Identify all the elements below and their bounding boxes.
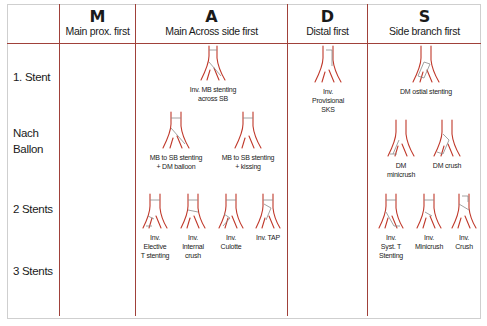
bifurcation-icon [414, 192, 444, 232]
column-letter: M [60, 8, 135, 25]
column-header-d: D Distal first [288, 8, 367, 38]
figure-caption: Inv. Crush [446, 233, 482, 251]
column-letter: A [136, 8, 287, 25]
bifurcation-icon [178, 192, 208, 232]
column-header-a: A Main Across side first [136, 8, 287, 38]
bifurcation-icon [140, 192, 170, 232]
figure-caption: DM crush [424, 161, 470, 170]
row-label-2-stents: 2 Stents [13, 201, 53, 217]
figure-mb-to-sb-dm-balloon: MB to SB stenting + DM balloon [140, 110, 212, 171]
figure-caption: MB to SB stenting + DM balloon [140, 153, 212, 171]
figure-caption: Inv. Internal crush [175, 233, 211, 260]
figure-inv-mb-stenting-across-sb: Inv. MB stenting across SB [178, 44, 248, 103]
figure-inv-crush: Inv. Crush [446, 192, 482, 251]
bifurcation-icon [410, 44, 442, 86]
bifurcation-icon [431, 118, 463, 160]
column-divider [135, 4, 136, 316]
figure-dm-crush: DM crush [424, 118, 470, 170]
column-letter: D [288, 8, 367, 25]
bifurcation-icon [312, 44, 344, 86]
figure-inv-tap: Inv. TAP [250, 192, 286, 242]
column-divider [59, 4, 60, 316]
figure-caption: Inv. Syst. T Stenting [372, 233, 410, 260]
row-label-1-stent: 1. Stent [13, 69, 50, 85]
column-subtitle: Side branch first [368, 25, 481, 38]
figure-caption: Inv. TAP [250, 233, 286, 242]
figure-caption: Inv. Culotte [213, 233, 249, 251]
figure-inv-culotte: Inv. Culotte [213, 192, 249, 251]
figure-caption: Inv. MB stenting across SB [178, 85, 248, 103]
row-label-3-stents: 3 Stents [13, 263, 53, 279]
column-subtitle: Main Across side first [136, 25, 287, 38]
figure-caption: DM ostial stenting [388, 87, 464, 96]
figure-dm-minicrush: DM minicrush [378, 118, 424, 179]
bifurcation-icon [376, 192, 406, 232]
figure-caption: DM minicrush [378, 161, 424, 179]
figure-dm-ostial-stenting: DM ostial stenting [388, 44, 464, 96]
bifurcation-icon [385, 118, 417, 160]
bifurcation-icon [253, 192, 283, 232]
figure-inv-internal-crush: Inv. Internal crush [175, 192, 211, 260]
column-letter: S [368, 8, 481, 25]
figure-inv-provisional-sks: Inv. Provisional SKS [298, 44, 358, 114]
figure-caption: Inv. Minicrush [410, 233, 448, 251]
figure-caption: MB to SB stenting + kissing [212, 153, 284, 171]
bifurcation-icon [197, 44, 229, 84]
bifurcation-icon [232, 110, 264, 152]
figure-caption: Inv. Provisional SKS [298, 87, 358, 114]
figure-inv-syst-t-stenting: Inv. Syst. T Stenting [372, 192, 410, 260]
figure-inv-minicrush: Inv. Minicrush [410, 192, 448, 251]
bifurcation-icon [449, 192, 479, 232]
bifurcation-icon [216, 192, 246, 232]
bifurcation-icon [160, 110, 192, 152]
column-header-m: M Main prox. first [60, 8, 135, 38]
column-header-s: S Side branch first [368, 8, 481, 38]
row-label-nach-ballon: Nach Ballon [13, 125, 43, 157]
figure-inv-elective-t-stenting: Inv. Elective T stenting [137, 192, 173, 260]
figure-caption: Inv. Elective T stenting [137, 233, 173, 260]
column-subtitle: Main prox. first [60, 25, 135, 38]
column-subtitle: Distal first [288, 25, 367, 38]
column-divider [287, 4, 288, 316]
figure-mb-to-sb-kissing: MB to SB stenting + kissing [212, 110, 284, 171]
column-divider [367, 4, 368, 316]
